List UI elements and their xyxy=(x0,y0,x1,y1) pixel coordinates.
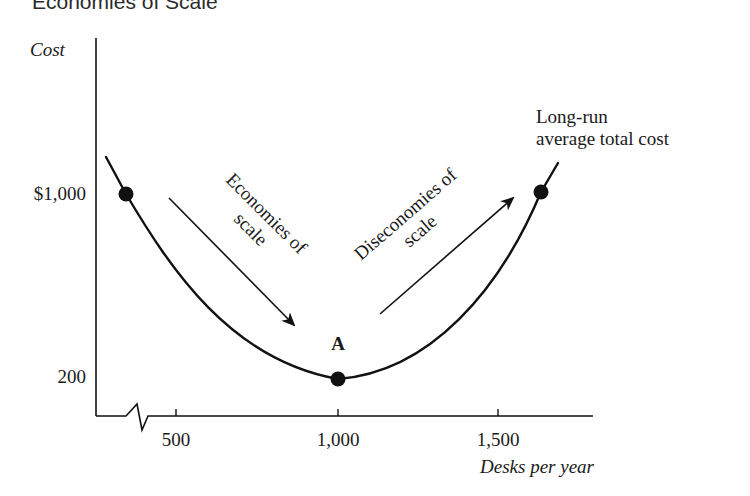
y-axis-label: Cost xyxy=(30,39,66,60)
point-a-minimum xyxy=(331,372,346,387)
economies-of-scale-annotation: Economies of scale xyxy=(207,169,312,274)
x-axis-label: Desks per year xyxy=(479,456,595,477)
diseconomies-label-line1: Diseconomies of xyxy=(350,164,461,264)
chart-title: Economies of Scale xyxy=(32,0,218,13)
x-tick-label-1000: 1,000 xyxy=(317,429,360,450)
x-tick-label-1500: 1,500 xyxy=(477,429,520,450)
y-tick-label-200: 200 xyxy=(58,366,87,387)
point-a-label: A xyxy=(331,333,345,354)
economies-label-line1: Economies of xyxy=(222,169,312,259)
chart-container: Economies of Scale 500 1,000 1,500 Desks… xyxy=(0,0,750,496)
point-right-1000 xyxy=(534,185,549,200)
curve-label-line1: Long-run xyxy=(536,106,608,127)
y-tick-label-1000: $1,000 xyxy=(34,183,86,204)
chart-svg: Economies of Scale 500 1,000 1,500 Desks… xyxy=(0,0,750,496)
diseconomies-of-scale-annotation: Diseconomies of scale xyxy=(350,164,475,281)
point-left-1000 xyxy=(119,187,134,202)
curve-label-line2: average total cost xyxy=(536,128,670,149)
x-tick-label-500: 500 xyxy=(162,429,191,450)
x-axis-line-with-break xyxy=(96,404,593,430)
